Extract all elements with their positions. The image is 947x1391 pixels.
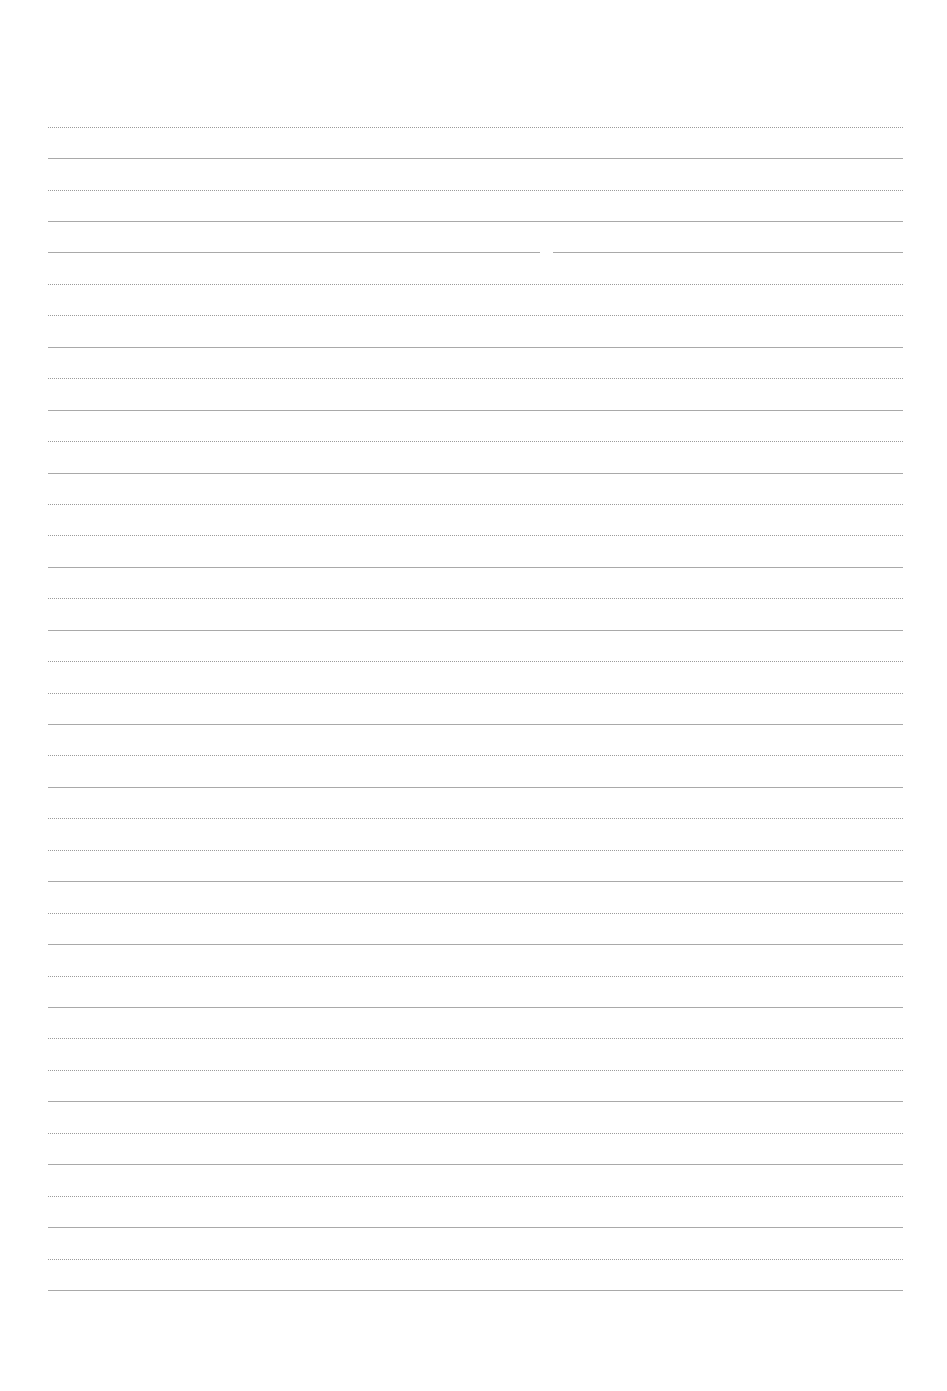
ruled-line bbox=[48, 1259, 903, 1260]
ruled-line bbox=[48, 1038, 903, 1039]
ruled-line bbox=[48, 1007, 903, 1008]
ruled-line bbox=[48, 818, 903, 819]
ruled-line bbox=[48, 630, 903, 631]
ruled-line bbox=[48, 755, 903, 756]
lined-paper-sheet bbox=[0, 0, 947, 1391]
ruled-line bbox=[48, 441, 903, 442]
ruled-line bbox=[48, 221, 903, 222]
ruled-line bbox=[48, 1290, 903, 1291]
ruled-line bbox=[48, 410, 903, 411]
ruled-line bbox=[48, 1227, 903, 1228]
ruled-line bbox=[48, 881, 903, 882]
ruled-line bbox=[48, 1164, 903, 1165]
ruled-line bbox=[48, 787, 903, 788]
ruled-line bbox=[48, 378, 903, 379]
ruled-line bbox=[48, 661, 903, 662]
ruled-line bbox=[48, 504, 903, 505]
ruled-line bbox=[48, 944, 903, 945]
ruled-line bbox=[48, 1196, 903, 1197]
ruled-line bbox=[48, 567, 903, 568]
ruled-line bbox=[48, 693, 903, 694]
ruled-line bbox=[48, 315, 903, 316]
ruled-line bbox=[48, 535, 903, 536]
ruled-line bbox=[48, 127, 903, 128]
ruled-line bbox=[48, 913, 903, 914]
line-gap bbox=[540, 250, 553, 254]
ruled-line bbox=[48, 598, 903, 599]
ruled-line bbox=[48, 347, 903, 348]
ruled-line bbox=[48, 1070, 903, 1071]
ruled-line bbox=[48, 473, 903, 474]
ruled-line bbox=[48, 976, 903, 977]
ruled-line bbox=[48, 1133, 903, 1134]
ruled-line bbox=[48, 158, 903, 159]
ruled-line bbox=[48, 252, 903, 253]
ruled-line bbox=[48, 190, 903, 191]
ruled-line bbox=[48, 284, 903, 285]
ruled-line bbox=[48, 850, 903, 851]
ruled-line bbox=[48, 1101, 903, 1102]
ruled-line bbox=[48, 724, 903, 725]
